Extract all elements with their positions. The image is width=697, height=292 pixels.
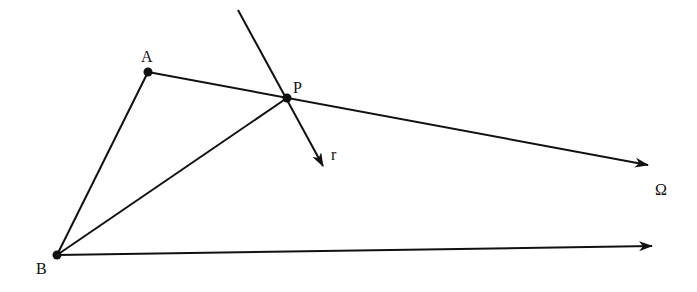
label-omega: Ω xyxy=(655,181,667,198)
label-B: B xyxy=(36,260,47,277)
point-B xyxy=(53,251,62,260)
ray-B-to-omega xyxy=(57,246,652,255)
segment-B-P xyxy=(57,98,287,255)
segment-A-B xyxy=(57,72,148,255)
point-P xyxy=(283,94,292,103)
ray-A-through-P-to-omega xyxy=(148,72,648,165)
geometry-diagram: A P B r Ω xyxy=(0,0,697,292)
point-A xyxy=(144,68,153,77)
label-r: r xyxy=(331,146,337,163)
label-A: A xyxy=(141,48,153,65)
label-P: P xyxy=(293,79,302,96)
ray-r-through-P xyxy=(238,10,323,166)
